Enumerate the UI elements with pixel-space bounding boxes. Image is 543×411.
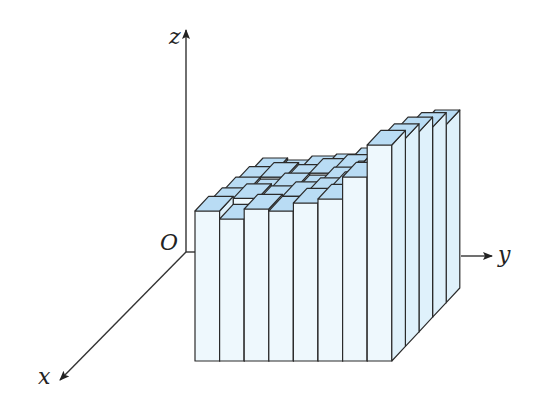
bar-side-face <box>405 124 419 347</box>
bar-column <box>367 130 405 361</box>
bar-columns <box>195 110 460 361</box>
bar-side-face <box>433 113 447 318</box>
bar-front-face <box>269 211 294 361</box>
bar-side-face <box>392 130 406 361</box>
y-axis-label: y <box>498 244 510 266</box>
bar-front-face <box>293 203 318 361</box>
x-axis-arrow <box>60 252 186 380</box>
bar-front-face <box>367 145 392 361</box>
z-axis-label: z <box>169 26 181 48</box>
x-axis-label: x <box>38 366 50 388</box>
bar-front-face <box>318 199 343 361</box>
bar-grid-svg <box>0 0 543 411</box>
origin-label: O <box>160 232 178 254</box>
bar-side-face <box>446 110 460 303</box>
bar-side-face <box>419 117 433 332</box>
bar-front-face <box>220 219 245 361</box>
diagram-canvas: z O y x <box>0 0 543 411</box>
bar-front-face <box>343 177 368 361</box>
bar-front-face <box>244 209 269 361</box>
bar-front-face <box>195 211 220 361</box>
